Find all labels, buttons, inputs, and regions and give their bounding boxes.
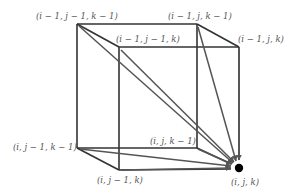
label-back-top-right: (i − 1, j, k − 1) (168, 11, 232, 21)
label-back-top-left: (i − 1, j − 1, k − 1) (36, 11, 118, 21)
label-back-bottom-left: (i, j − 1, k − 1) (13, 142, 77, 152)
target-node-dot (235, 164, 243, 172)
label-front-top-right: (i − 1, j, k) (238, 34, 284, 44)
label-front-top-left: (i − 1, j − 1, k) (116, 34, 180, 44)
label-back-bottom-right: (i, j, k − 1) (150, 136, 196, 146)
label-target: (i, j, k) (231, 177, 259, 187)
arrow-from-back-bottom-left (80, 149, 231, 166)
arrow-from-back-bottom-right (198, 149, 232, 164)
label-front-bottom-left: (i, j − 1, k) (97, 175, 143, 185)
cube-diagram (0, 0, 293, 196)
